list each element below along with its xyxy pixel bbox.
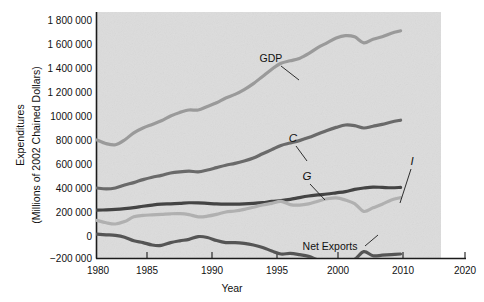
y-tick-label: 200 000 xyxy=(56,207,93,218)
annotation-c: C xyxy=(289,132,298,144)
x-tick-label: 1995 xyxy=(266,265,289,276)
y-tick-label: 1000 000 xyxy=(50,111,92,122)
x-tick-label: 1985 xyxy=(136,265,159,276)
paper-grain-overlay xyxy=(96,12,441,258)
chart-figure: 1 800 000 1 600 000 1 400 000 1 200 000 … xyxy=(0,0,484,302)
y-tick-label: −200 000 xyxy=(50,253,92,264)
x-tick-label: 2020 xyxy=(454,265,477,276)
y-tick-label: 0 xyxy=(86,231,92,242)
y-tick-label: 400 000 xyxy=(56,183,93,194)
y-tick-label: 1 600 000 xyxy=(48,39,93,50)
x-axis-title: Year xyxy=(221,282,243,294)
y-tick-label: 1 400 000 xyxy=(48,63,93,74)
y-tick-label: 1 200 000 xyxy=(48,87,93,98)
y-tick-label: 800 000 xyxy=(56,135,93,146)
annotation-g: G xyxy=(303,170,312,182)
expenditures-line-chart: 1 800 000 1 600 000 1 400 000 1 200 000 … xyxy=(0,0,484,302)
x-tick-label: 2010 xyxy=(392,265,415,276)
y-tick-label: 1 800 000 xyxy=(48,15,93,26)
x-tick-label: 1990 xyxy=(201,265,224,276)
y-axis-title-line1: Expenditures xyxy=(14,104,26,165)
annotation-gdp: GDP xyxy=(260,52,283,64)
y-tick-label: 600 000 xyxy=(56,159,93,170)
x-tick-label: 2000 xyxy=(327,265,350,276)
y-axis-title-line2: (Millions of 2002 Chained Dollars) xyxy=(30,66,42,224)
x-tick-label: 1980 xyxy=(87,265,110,276)
annotation-net-exports: Net Exports xyxy=(303,240,358,252)
